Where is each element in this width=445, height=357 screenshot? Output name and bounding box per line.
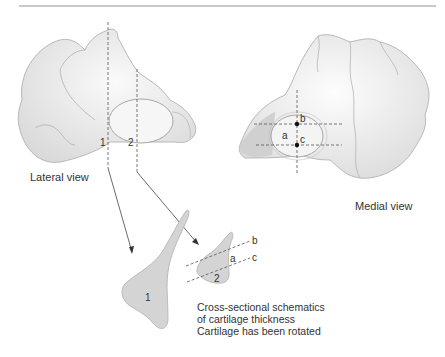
medial-point-a: a: [282, 130, 288, 141]
lateral-section-label-2: 2: [128, 137, 134, 148]
caption-line-2: of cartilage thickness: [197, 313, 325, 325]
cross-section-caption: Cross-sectional schematics of cartilage …: [197, 301, 325, 337]
cross-section-1: [122, 210, 189, 328]
section2-marker-b: b: [252, 235, 258, 246]
lateral-section-label-1: 1: [100, 137, 106, 148]
arrow-section-1: [108, 168, 134, 254]
lateral-cartilage-facet: [109, 99, 173, 143]
medial-point-b: b: [300, 113, 306, 124]
point-c-marker: [295, 143, 299, 147]
medial-view-bone: [239, 35, 429, 179]
section2-marker-a: a: [230, 253, 236, 264]
medial-point-c: c: [300, 134, 305, 145]
cross-section-2-label: 2: [214, 273, 220, 284]
lateral-view-label: Lateral view: [30, 171, 89, 184]
point-b-marker: [295, 122, 299, 126]
medial-view-label: Medial view: [355, 200, 412, 213]
cross-section-1-label: 1: [145, 292, 151, 303]
caption-line-3: Cartilage has been rotated: [197, 325, 325, 337]
lateral-view-bone: [18, 29, 195, 162]
arrow-section-2: [137, 172, 199, 245]
caption-line-1: Cross-sectional schematics: [197, 301, 325, 313]
section2-marker-c: c: [252, 252, 257, 263]
